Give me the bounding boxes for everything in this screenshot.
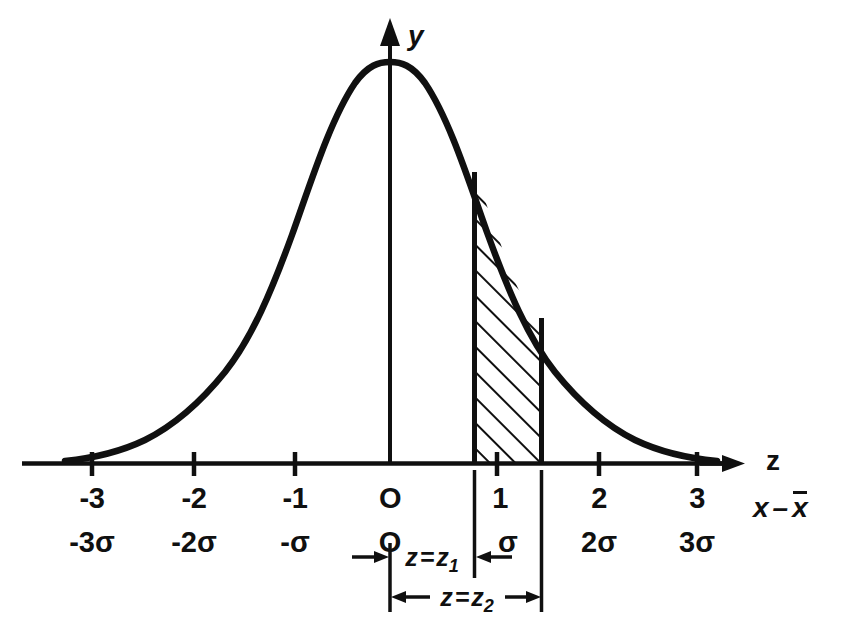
z-axis-label: z — [766, 447, 780, 475]
z-tick-label-2: 2 — [591, 484, 607, 513]
dim-z1-equals: = — [420, 543, 435, 571]
dim-z1-var: z — [436, 543, 449, 571]
y-axis — [380, 18, 400, 464]
deviation-label-0: O — [379, 528, 402, 557]
z-tick-label--1: -1 — [283, 484, 308, 513]
dim-z2-prefix: z — [440, 583, 453, 611]
deviation-label--2sigma: -2σ — [171, 528, 217, 557]
dim-z2-sub: 2 — [484, 596, 494, 616]
z-tick-label--3: -3 — [80, 484, 105, 513]
dim-z2-var: z — [471, 583, 484, 611]
secondary-axis-xbar-wrap: x — [792, 494, 808, 522]
overbar — [793, 491, 807, 494]
z-tick-label-1: 1 — [492, 484, 508, 513]
secondary-axis-xbar: x — [792, 492, 808, 523]
secondary-axis-label: x–x — [753, 494, 808, 522]
deviation-label--3sigma: -3σ — [69, 528, 115, 557]
deviation-label--sigma: -σ — [280, 528, 310, 557]
secondary-axis-minus: – — [773, 492, 789, 523]
dimension-label-z2: z=z2 — [440, 585, 494, 615]
z-axis — [22, 455, 745, 472]
dim-z2-equals: = — [455, 583, 470, 611]
normal-distribution-figure: y z x–x -3 -2 -1 O 1 2 3 -3σ -2σ -σ O σ … — [0, 0, 845, 639]
deviation-label-3sigma: 3σ — [679, 528, 715, 557]
dimension-label-z1: z=z1 — [405, 545, 459, 575]
z-tick-label--2: -2 — [182, 484, 207, 513]
dim-z1-sub: 1 — [449, 556, 459, 576]
dim-z1-prefix: z — [405, 543, 418, 571]
deviation-label-sigma: σ — [498, 528, 518, 557]
z-tick-label-0: O — [379, 484, 401, 513]
deviation-label-2sigma: 2σ — [581, 528, 617, 557]
secondary-axis-x: x — [753, 492, 769, 523]
y-axis-label: y — [408, 22, 424, 50]
z-tick-label-3: 3 — [689, 484, 705, 513]
